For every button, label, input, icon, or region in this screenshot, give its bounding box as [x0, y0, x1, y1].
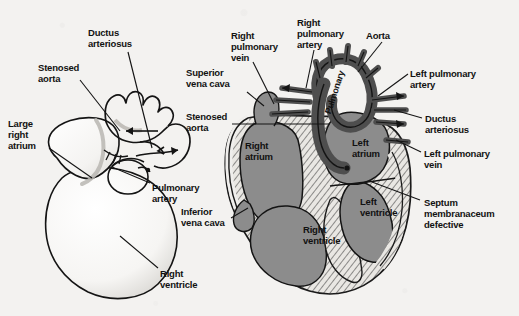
label-ductus-arteriosus-right: Ductus arteriosus: [425, 113, 469, 135]
label-ductus-arteriosus: Ductus arteriosus: [88, 27, 132, 49]
label-right-ventricle-inner: Right ventricle: [303, 224, 340, 246]
label-left-pulmonary-vein: Left pulmonary vein: [424, 148, 490, 170]
label-left-atrium: Left atrium: [352, 137, 380, 159]
label-pulmonary-artery: Pulmonary artery: [152, 182, 199, 204]
label-right-pulmonary-artery: Right pulmonary artery: [297, 17, 344, 50]
label-superior-vena-cava: Superior vena cava: [186, 67, 230, 89]
label-right-atrium: Right atrium: [245, 140, 273, 162]
vessel-dot: [146, 168, 150, 172]
label-right-ventricle: Right ventricle: [160, 268, 197, 290]
label-right-pulmonary-vein: Right pulmonary vein: [231, 30, 278, 63]
label-aorta: Aorta: [366, 30, 390, 41]
label-inferior-vena-cava: Inferior vena cava: [181, 206, 225, 228]
label-left-pulmonary-artery: Left pulmonary artery: [410, 68, 476, 90]
pulmonary-valve-dot: [344, 165, 349, 170]
label-septum-membranaceum-defective: Septum membranaceum defective: [424, 197, 494, 230]
label-stenosed-aorta-right: Stenosed aorta: [186, 111, 227, 133]
label-left-ventricle-inner: Left ventricle: [360, 196, 397, 218]
label-large-right-atrium: Large right atrium: [8, 118, 36, 151]
label-stenosed-aorta: Stenosed aorta: [38, 62, 79, 84]
